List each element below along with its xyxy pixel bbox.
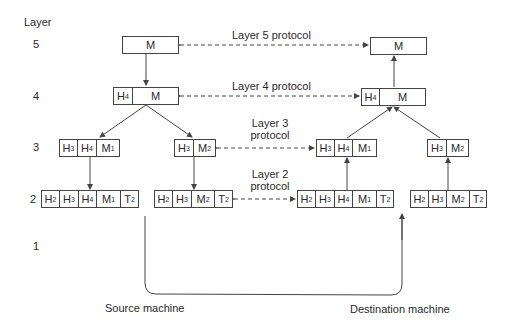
cell-h4: H4 bbox=[335, 140, 353, 156]
layer4-protocol-label: Layer 4 protocol bbox=[232, 80, 311, 92]
cell-h3: H3 bbox=[60, 191, 79, 207]
layer2-protocol-line1: Layer 2 bbox=[245, 168, 295, 180]
cell-m: M bbox=[133, 88, 178, 104]
destination-layer3-packet-m2-box: H3 M2 bbox=[427, 139, 469, 157]
cell-h4: H4 bbox=[79, 191, 97, 207]
destination-layer2-frame-m2-box: H2 H3 M2 T2 bbox=[410, 190, 487, 208]
cell-h3: H3 bbox=[175, 140, 194, 156]
layer5-protocol-label: Layer 5 protocol bbox=[232, 29, 311, 41]
cell-t2: T2 bbox=[377, 191, 393, 207]
source-layer2-frame-m2-box: H2 H3 M2 T2 bbox=[154, 190, 233, 208]
source-layer5-message-box: M bbox=[122, 36, 179, 54]
cell-h3: H3 bbox=[428, 140, 447, 156]
layer-number-3: 3 bbox=[33, 141, 39, 153]
cell-m: M bbox=[371, 38, 426, 54]
destination-layer4-packet-box: H4 M bbox=[361, 88, 426, 106]
cell-m: M bbox=[380, 89, 425, 105]
cell-h4: H4 bbox=[335, 191, 353, 207]
cell-h2: H2 bbox=[298, 191, 316, 207]
destination-layer2-frame-m1-box: H2 H3 H4 M1 T2 bbox=[297, 190, 394, 208]
layer-number-2: 2 bbox=[30, 193, 36, 205]
cell-h3: H3 bbox=[316, 191, 335, 207]
cell-h4: H4 bbox=[114, 88, 133, 104]
source-machine-label: Source machine bbox=[105, 302, 185, 314]
destination-layer5-message-box: M bbox=[370, 37, 427, 55]
cell-t2: T2 bbox=[470, 191, 486, 207]
cell-h3: H3 bbox=[173, 191, 192, 207]
layer-number-1: 1 bbox=[33, 240, 39, 252]
cell-m2: M2 bbox=[194, 140, 215, 156]
cell-m1: M1 bbox=[97, 140, 119, 156]
cell-m2: M2 bbox=[447, 191, 470, 207]
layer-number-5: 5 bbox=[33, 38, 39, 50]
cell-h2: H2 bbox=[42, 191, 60, 207]
cell-m1: M1 bbox=[353, 140, 376, 156]
cell-m1: M1 bbox=[353, 191, 377, 207]
cell-m2: M2 bbox=[192, 191, 215, 207]
destination-layer3-packet-m1-box: H3 H4 M1 bbox=[316, 139, 377, 157]
source-layer2-frame-m1-box: H2 H3 H4 M1 T2 bbox=[41, 190, 139, 208]
cell-h3: H3 bbox=[429, 191, 447, 207]
cell-t2: T2 bbox=[215, 191, 232, 207]
layer2-protocol-label: Layer 2 protocol bbox=[245, 168, 295, 192]
source-layer3-packet-m1-box: H3 H4 M1 bbox=[59, 139, 120, 157]
layer-number-4: 4 bbox=[33, 90, 39, 102]
cell-t2: T2 bbox=[121, 191, 138, 207]
layer3-protocol-label: Layer 3 protocol bbox=[245, 117, 295, 141]
cell-m: M bbox=[123, 37, 178, 53]
cell-m2: M2 bbox=[447, 140, 468, 156]
destination-machine-label: Destination machine bbox=[350, 303, 450, 315]
layer3-protocol-line1: Layer 3 bbox=[245, 117, 295, 129]
source-layer3-packet-m2-box: H3 M2 bbox=[174, 139, 216, 157]
layer-axis-title: Layer bbox=[24, 16, 52, 28]
source-layer4-packet-box: H4 M bbox=[113, 87, 179, 105]
cell-h2: H2 bbox=[155, 191, 173, 207]
cell-h2: H2 bbox=[411, 191, 429, 207]
connector-lines bbox=[0, 0, 507, 330]
cell-h4: H4 bbox=[362, 89, 380, 105]
cell-h3: H3 bbox=[60, 140, 78, 156]
layer3-protocol-line2: protocol bbox=[245, 129, 295, 141]
cell-m1: M1 bbox=[97, 191, 121, 207]
cell-h4: H4 bbox=[78, 140, 97, 156]
cell-h3: H3 bbox=[317, 140, 335, 156]
layer2-protocol-line2: protocol bbox=[245, 180, 295, 192]
